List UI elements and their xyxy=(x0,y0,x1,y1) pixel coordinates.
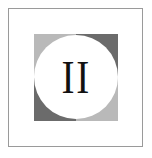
roman-numeral-emblem: II xyxy=(34,34,118,121)
white-circle: II xyxy=(34,35,118,119)
roman-numeral-two: II xyxy=(61,55,90,101)
